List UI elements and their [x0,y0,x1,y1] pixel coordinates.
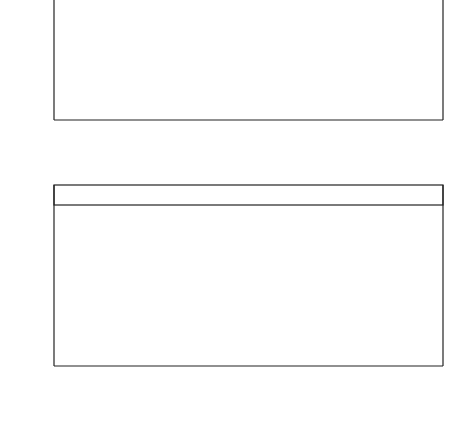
program-activity-chart [54,0,443,120]
phase-header-band [54,185,443,205]
inventory-chart [54,185,443,366]
chart [0,0,471,423]
